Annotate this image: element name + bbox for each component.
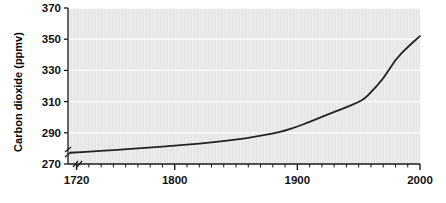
plot-area-background <box>68 8 420 164</box>
y-tick-label: 310 <box>42 96 61 108</box>
y-tick-label: 350 <box>42 33 61 45</box>
x-tick-label: 1800 <box>162 174 188 186</box>
y-tick-label: 330 <box>42 64 61 76</box>
co2-line-chart: 270290310330350370 1720180019002000 Carb… <box>0 0 446 203</box>
x-tick-label: 1900 <box>285 174 311 186</box>
x-tick-label: 1720 <box>64 174 90 186</box>
y-tick-label: 370 <box>42 2 61 14</box>
chart-canvas: 270290310330350370 1720180019002000 Carb… <box>0 0 446 203</box>
y-axis-title: Carbon dioxide (ppmv) <box>12 32 24 152</box>
x-tick-label: 2000 <box>407 174 433 186</box>
y-tick-label: 270 <box>42 158 61 170</box>
x-axis-tick-labels: 1720180019002000 <box>64 174 433 186</box>
y-axis-tick-labels: 270290310330350370 <box>42 2 61 170</box>
y-tick-label: 290 <box>42 127 61 139</box>
